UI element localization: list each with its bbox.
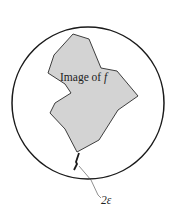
gap-label: 2ε <box>101 194 112 206</box>
diagram: Image of f 2ε <box>0 0 176 222</box>
region-label: Image of f <box>60 71 109 84</box>
gap-leader-line <box>79 166 101 198</box>
gap-segment <box>74 153 79 170</box>
image-region <box>48 34 138 152</box>
